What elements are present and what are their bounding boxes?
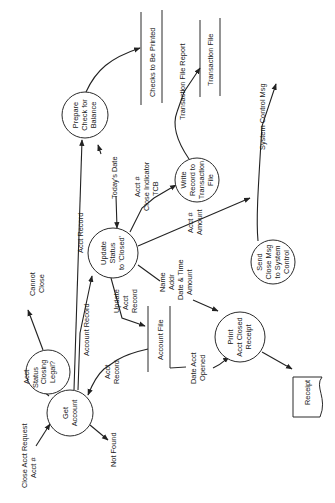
svg-text:Record: Record — [112, 360, 121, 384]
svg-text:Acct: Acct — [103, 365, 112, 379]
store-label: Transaction File — [206, 34, 215, 86]
svg-text:Record: Record — [130, 289, 139, 313]
svg-text:Close Indicator: Close Indicator — [142, 161, 151, 211]
process-send-close-msg: Send Close Msg to System Control — [251, 240, 295, 284]
process-write-record: Write Record to Transaction File — [175, 158, 219, 202]
svg-text:to System: to System — [273, 246, 282, 279]
svg-text:Close Acct Request: Close Acct Request — [20, 424, 29, 489]
label-cannot-close: Cannot Close — [28, 272, 46, 296]
flow-date-to-prepare — [98, 145, 101, 154]
svg-text:Prepare: Prepare — [71, 102, 80, 128]
label-acct-amount: Acct # Amount — [186, 210, 204, 235]
svg-text:Account Record: Account Record — [82, 303, 91, 356]
label-todays-date: Today's Date — [110, 157, 119, 200]
flow-close-acct-request — [36, 424, 50, 446]
svg-text:Closing: Closing — [39, 360, 48, 385]
svg-text:Acct #: Acct # — [133, 176, 142, 197]
label-receipt-data: Name Addr Date & Time Amount — [158, 259, 194, 300]
svg-text:Balance: Balance — [89, 102, 98, 129]
svg-text:Status: Status — [31, 367, 40, 388]
label-account-record: Account Record — [82, 303, 91, 356]
label-acct-record-from-file: Acct Record — [103, 360, 121, 384]
svg-text:Acct: Acct — [121, 296, 130, 310]
flow-receipt-output — [262, 352, 292, 369]
svg-text:Cannot: Cannot — [28, 272, 37, 296]
document-receipt: Receipt — [293, 377, 323, 417]
document-label: Receipt — [303, 380, 312, 405]
svg-text:Addr: Addr — [167, 274, 176, 290]
svg-text:Acct: Acct — [22, 370, 31, 384]
svg-text:Transaction: Transaction — [197, 161, 206, 199]
svg-text:Record to: Record to — [188, 164, 197, 196]
svg-text:Name: Name — [158, 272, 167, 292]
flow-cannot-close — [28, 310, 43, 350]
label-close-acct-request: Close Acct Request Acct # — [20, 424, 38, 489]
flow-todays-date — [116, 196, 117, 228]
store-label: Account File — [156, 319, 165, 360]
svg-text:Send: Send — [255, 253, 264, 270]
label-not-found: Not Found — [109, 432, 118, 467]
svg-text:Transaction File Report: Transaction File Report — [178, 43, 187, 120]
label-acct-record-long: Acct Record — [76, 213, 85, 253]
svg-text:Control: Control — [282, 250, 291, 274]
svg-text:Check for: Check for — [80, 99, 89, 131]
svg-text:Close Msg: Close Msg — [264, 245, 273, 280]
process-print-receipt: Print Acct Closed Receipt — [215, 312, 265, 362]
svg-text:Get: Get — [61, 407, 70, 419]
svg-text:Date Acct: Date Acct — [189, 352, 198, 384]
label-close-indicator: Acct # Close Indicator TCB — [133, 161, 160, 211]
svg-text:Receipt: Receipt — [244, 324, 253, 349]
svg-text:File: File — [206, 174, 215, 186]
label-update-acct-record: Update Acct Record — [112, 289, 139, 313]
svg-text:Account: Account — [70, 400, 79, 427]
store-label: Checks to Be Printed — [148, 28, 157, 97]
svg-text:Write: Write — [179, 171, 188, 188]
svg-text:Status: Status — [108, 242, 117, 263]
flow-acct-record-long — [74, 140, 82, 390]
svg-text:Print: Print — [226, 329, 235, 344]
label-acct-status: Acct Status — [22, 367, 40, 388]
svg-text:Opened: Opened — [198, 355, 207, 381]
svg-text:Amount: Amount — [185, 270, 194, 295]
svg-text:Acct Closed: Acct Closed — [235, 317, 244, 356]
svg-text:Acct #: Acct # — [29, 457, 38, 478]
data-flow-diagram: Checks to Be Printed Transaction File Ac… — [0, 0, 335, 503]
svg-text:System Control Msg: System Control Msg — [258, 83, 267, 150]
process-update-status: Update Status to 'Closed' — [88, 228, 138, 278]
label-transaction-file-report: Transaction File Report — [178, 43, 187, 120]
svg-text:Not Found: Not Found — [109, 432, 118, 467]
svg-text:Close: Close — [37, 274, 46, 293]
flow-not-found — [90, 425, 108, 440]
svg-text:Amount: Amount — [195, 210, 204, 235]
svg-text:Update: Update — [99, 241, 108, 265]
svg-text:Date & Time: Date & Time — [176, 259, 185, 300]
svg-text:TCB: TCB — [151, 181, 160, 196]
store-account-file: Account File — [148, 306, 186, 372]
svg-text:Acct Record: Acct Record — [76, 213, 85, 253]
flow-check-to-store — [86, 48, 140, 92]
svg-text:Today's Date: Today's Date — [110, 157, 119, 200]
store-checks-to-be-printed: Checks to Be Printed — [141, 10, 162, 105]
label-date-acct-opened: Date Acct Opened — [189, 352, 207, 384]
svg-text:Legal?: Legal? — [48, 361, 57, 383]
label-system-control-msg: System Control Msg — [258, 83, 267, 150]
svg-text:Update: Update — [112, 289, 121, 313]
process-prepare-check: Prepare Check for Balance — [62, 92, 108, 138]
svg-text:to 'Closed': to 'Closed' — [117, 235, 126, 270]
svg-text:Acct #: Acct # — [186, 212, 195, 233]
process-get-account: Get Account — [47, 390, 93, 436]
store-transaction-file: Transaction File — [200, 18, 220, 97]
